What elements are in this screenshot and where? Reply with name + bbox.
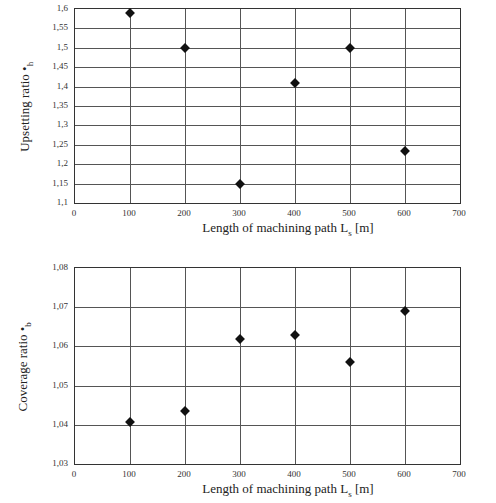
gridline-vertical	[405, 268, 406, 464]
x-tick-label: 500	[334, 469, 364, 479]
data-point-marker	[345, 357, 355, 367]
x-tick-label: 100	[114, 469, 144, 479]
data-point-marker	[290, 330, 300, 340]
x-tick-label: 400	[279, 469, 309, 479]
gridline-horizontal	[75, 425, 460, 426]
gridline-vertical	[185, 268, 186, 464]
y-tick-label: 1,06	[38, 340, 68, 350]
gridline-vertical	[240, 268, 241, 464]
gridline-vertical	[130, 268, 131, 464]
data-point-marker	[235, 334, 245, 344]
x-tick-label: 200	[169, 469, 199, 479]
data-point-marker	[180, 406, 190, 416]
y-tick-label: 1,04	[38, 419, 68, 429]
x-tick-label: 300	[224, 469, 254, 479]
plot-area	[74, 267, 461, 465]
y-tick-label: 1,03	[38, 458, 68, 468]
gridline-vertical	[295, 268, 296, 464]
y-axis-label: Coverage ratio •b	[15, 297, 33, 437]
y-tick-label: 1,07	[38, 301, 68, 311]
x-tick-label: 0	[59, 469, 89, 479]
gridline-horizontal	[75, 386, 460, 387]
y-tick-label: 1,08	[38, 262, 68, 272]
x-tick-label: 600	[389, 469, 419, 479]
x-axis-label: Length of machining path Ls [m]	[168, 481, 408, 499]
y-tick-label: 1,05	[38, 380, 68, 390]
coverage-ratio-chart: 1,081,071,061,051,041,03 010020030040050…	[0, 0, 496, 503]
x-tick-label: 700	[444, 469, 474, 479]
gridline-horizontal	[75, 346, 460, 347]
